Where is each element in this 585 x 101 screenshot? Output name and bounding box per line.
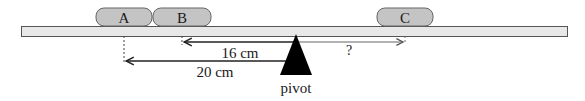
lever-diagram: A B C 16 cm 20 cm ? pivot: [0, 0, 585, 101]
object-c: C: [377, 8, 433, 26]
object-b: B: [153, 8, 211, 26]
object-b-label: B: [177, 10, 187, 26]
pivot-label: pivot: [281, 80, 313, 96]
pivot-triangle: [280, 34, 312, 75]
distance-label-16: 16 cm: [221, 45, 258, 61]
distance-label-20: 20 cm: [196, 64, 233, 80]
beam: [22, 27, 568, 37]
distance-label-unknown: ?: [346, 43, 352, 58]
object-c-label: C: [400, 10, 410, 26]
object-a-label: A: [119, 10, 130, 26]
object-a: A: [96, 8, 152, 26]
